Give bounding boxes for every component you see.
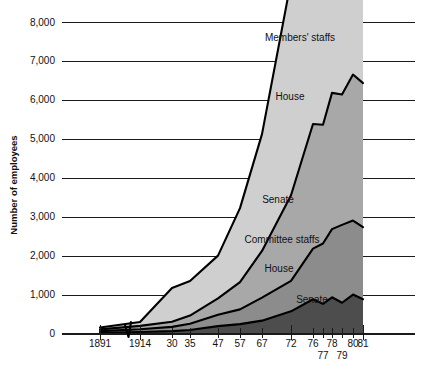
y-tick-label-3000: 3,000	[30, 211, 55, 222]
x-tick-label-81: 81	[357, 338, 369, 349]
y-tick-label-1000: 1,000	[30, 289, 55, 300]
x-tick-label-76: 76	[307, 338, 319, 349]
x-tick-label-57: 57	[234, 338, 246, 349]
y-tick-label-5000: 5,000	[30, 133, 55, 144]
x-tick-label-1891: 1891	[89, 338, 112, 349]
x-tick-label-30: 30	[166, 338, 178, 349]
chart-container: 01,0002,0003,0004,0005,0006,0007,0008,00…	[0, 0, 427, 370]
y-tick-label-7000: 7,000	[30, 55, 55, 66]
annotation-senate: Senate	[262, 194, 294, 205]
y-axis-tick-labels: 01,0002,0003,0004,0005,0006,0007,0008,00…	[30, 17, 55, 340]
y-tick-label-8000: 8,000	[30, 17, 55, 28]
annotation-house: House	[276, 91, 305, 102]
x-tick-label-1914: 1914	[129, 338, 152, 349]
x-axis-tick-labels: 18911914303547576772767778798081	[89, 338, 369, 361]
y-tick-label-2000: 2,000	[30, 250, 55, 261]
x-tick-label-35: 35	[184, 338, 196, 349]
x-tick-label-79: 79	[336, 350, 348, 361]
x-tick-label-78: 78	[326, 338, 338, 349]
x-tick-label-77: 77	[317, 350, 329, 361]
y-tick-label-0: 0	[49, 328, 55, 339]
annotation-senate: Senate	[296, 294, 328, 305]
employees-area-chart: 01,0002,0003,0004,0005,0006,0007,0008,00…	[0, 0, 427, 370]
x-tick-label-47: 47	[212, 338, 224, 349]
annotation-committee-staffs: Committee staffs	[245, 234, 320, 245]
stacked-area-bands	[100, 0, 363, 334]
y-tick-label-6000: 6,000	[30, 94, 55, 105]
x-tick-label-67: 67	[256, 338, 268, 349]
annotation-members-staffs: Members' staffs	[265, 32, 335, 43]
y-axis-title: Number of employees	[8, 135, 19, 234]
y-tick-label-4000: 4,000	[30, 172, 55, 183]
annotation-house: House	[265, 263, 294, 274]
x-tick-label-72: 72	[285, 338, 297, 349]
